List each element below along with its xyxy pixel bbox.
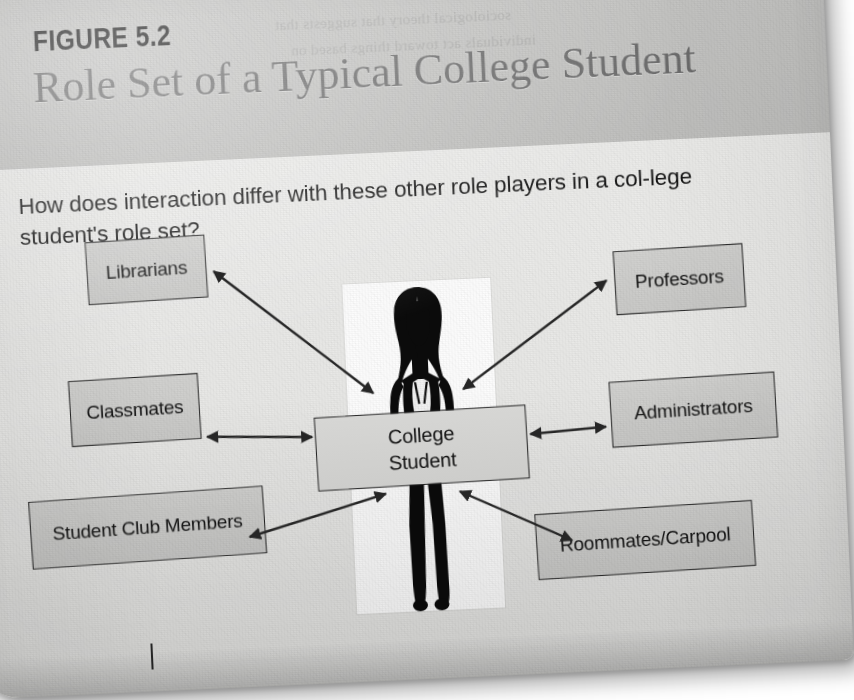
node-label: Classmates [86,395,185,425]
node-label: Roommates/Carpool [559,522,731,557]
connector-classmates [207,432,312,442]
node-roommates-carpool[interactable]: Roommates/Carpool [534,500,756,580]
role-set-diagram: Librarians Professors Classmates Adminis… [0,0,854,700]
node-classmates[interactable]: Classmates [68,373,202,447]
node-label: Librarians [105,255,188,284]
node-student-club-members[interactable]: Student Club Members [28,485,267,569]
center-label-line2: Student [388,446,457,476]
node-professors[interactable]: Professors [613,243,747,315]
node-label: Student Club Members [52,509,244,546]
connector-administrators [530,427,606,434]
figure-card: sociological theory that suggests that i… [0,0,854,700]
node-label: Professors [634,264,724,294]
node-college-student[interactable]: College Student [314,404,530,491]
node-administrators[interactable]: Administrators [608,372,778,448]
node-label: Administrators [633,394,753,425]
node-librarians[interactable]: Librarians [85,234,209,305]
photographed-page: sociological theory that suggests that i… [0,0,854,700]
